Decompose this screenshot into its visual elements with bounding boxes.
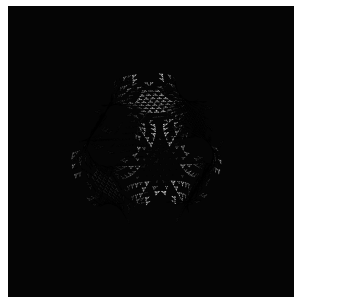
minimal-surface-mesh-canvas	[0, 0, 338, 308]
figure-root	[0, 0, 338, 308]
